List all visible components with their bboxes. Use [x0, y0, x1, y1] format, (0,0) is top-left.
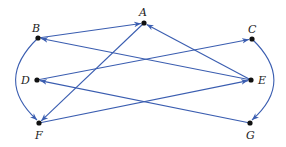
node-c: [249, 36, 254, 41]
graph-diagram: ABCDEFG: [0, 0, 286, 147]
graph-svg: [0, 0, 286, 147]
edge-a-to-f: [41, 23, 144, 121]
node-label-a: A: [139, 7, 147, 18]
node-b: [35, 35, 40, 40]
node-label-d: D: [21, 75, 30, 86]
node-label-g: G: [246, 130, 255, 141]
node-f: [36, 120, 41, 125]
node-label-e: E: [258, 75, 266, 86]
node-label-b: B: [32, 23, 40, 34]
node-g: [247, 120, 252, 125]
node-label-f: F: [35, 130, 43, 141]
node-a: [141, 20, 146, 25]
node-e: [248, 77, 253, 82]
nodes-group: [34, 20, 254, 125]
node-d: [34, 77, 39, 82]
edge-e-to-a: [147, 24, 251, 80]
edges-group: [16, 23, 274, 123]
edge-b-to-a: [38, 23, 141, 38]
node-label-c: C: [248, 24, 256, 35]
edge-d-to-c: [37, 40, 249, 80]
